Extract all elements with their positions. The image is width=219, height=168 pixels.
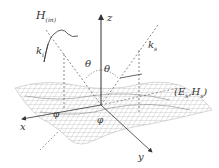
incident-wavevector-label: ki [36,46,44,58]
scattered-wavevector-label: ks [148,40,157,52]
phi-incident-label: φ [53,110,59,119]
theta-incident-label: θ [85,59,91,69]
theta-scattered-label: θ [104,64,110,74]
y-axis-label: y [138,152,144,162]
z-axis-label: z [107,13,112,23]
rough-surface-scattering-diagram [0,0,219,168]
incident-field-label: H(in) [36,10,56,23]
phi-scattered-label: φ [97,116,103,125]
x-axis-label: x [20,122,26,132]
scattered-field-label: (Es,Hs) [174,87,207,99]
